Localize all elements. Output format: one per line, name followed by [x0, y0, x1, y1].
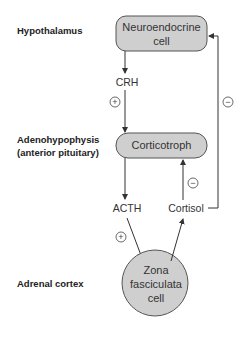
hpa-axis-diagram: Hypothalamus Adenohypophysis (anterior p…: [0, 0, 249, 338]
zona-label-line3: cell: [148, 292, 165, 304]
arrow-acth-to-zona: [127, 218, 142, 258]
corticotroph-label: Corticotroph: [132, 139, 192, 151]
node-neuroendocrine-cell: Neuroendocrine cell: [116, 16, 207, 51]
node-corticotroph: Corticotroph: [116, 133, 207, 158]
neuroendocrine-cell-label-line2: cell: [153, 35, 170, 47]
level-label-adrenal-cortex: Adrenal cortex: [17, 278, 84, 289]
svg-text:−: −: [225, 97, 230, 107]
plus-sign-acth: +: [116, 232, 126, 242]
minus-sign-cortisol-hypothalamus: −: [223, 97, 233, 107]
signal-crh: CRH: [116, 76, 139, 88]
level-label-anterior-pituitary: (anterior pituitary): [17, 147, 99, 158]
neuroendocrine-cell-label-line1: Neuroendocrine: [122, 21, 200, 33]
svg-text:−: −: [190, 178, 195, 188]
arrow-zona-to-cortisol: [171, 219, 183, 261]
signal-acth: ACTH: [113, 202, 142, 214]
plus-sign-crh: +: [110, 97, 120, 107]
zona-label-line2: fasciculata: [130, 278, 183, 290]
minus-sign-cortisol-pituitary: −: [188, 178, 198, 188]
svg-text:+: +: [112, 97, 117, 107]
level-label-hypothalamus: Hypothalamus: [17, 25, 82, 36]
zona-label-line1: Zona: [143, 264, 169, 276]
svg-text:+: +: [118, 232, 123, 242]
level-label-adenohypophysis: Adenohypophysis: [17, 134, 99, 145]
arrow-cortisol-to-neuroendocrine: [208, 36, 218, 208]
node-zona-fasciculata-cell: Zona fasciculata cell: [122, 250, 188, 316]
signal-cortisol: Cortisol: [168, 202, 204, 214]
